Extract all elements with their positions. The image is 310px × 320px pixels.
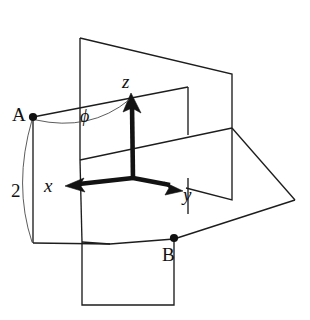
axis-z bbox=[123, 93, 141, 180]
length-arc-2 bbox=[23, 120, 33, 242]
plane-yz-front-lower bbox=[82, 239, 174, 305]
axis-label-x: x bbox=[44, 176, 52, 195]
point-a-dot bbox=[29, 113, 37, 121]
figure-canvas bbox=[0, 0, 310, 320]
point-b-dot bbox=[170, 234, 178, 242]
plane-xz-left bbox=[33, 87, 188, 244]
point-label-a: A bbox=[12, 105, 26, 124]
distance-label: 2 bbox=[11, 181, 21, 200]
axis-y bbox=[133, 178, 183, 195]
axis-x bbox=[65, 178, 133, 192]
angle-label-phi: ϕ bbox=[80, 107, 89, 125]
plane-yz-back bbox=[80, 38, 232, 200]
point-label-b: B bbox=[162, 245, 175, 264]
axis-label-y: y bbox=[183, 185, 191, 204]
coordinate-axes-figure: z x y ϕ A B 2 bbox=[0, 0, 310, 320]
axis-label-z: z bbox=[122, 72, 129, 91]
